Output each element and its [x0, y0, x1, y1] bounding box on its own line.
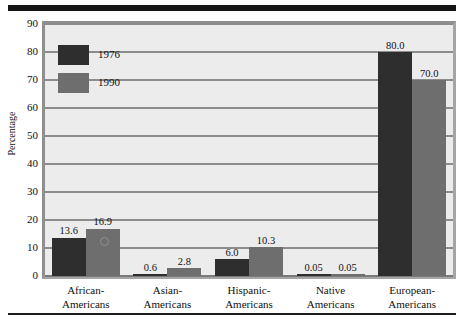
bar-value-label: 13.6 [60, 226, 78, 237]
legend-item-1976[interactable]: 1976 [58, 45, 168, 66]
y-axis-tick-label: 0 [8, 270, 38, 281]
bar-value-label: 10.3 [257, 236, 275, 247]
bar[interactable]: 6.0 [215, 259, 249, 276]
bar[interactable]: 0.05 [331, 274, 365, 276]
bar[interactable]: 70.0 [412, 80, 446, 276]
legend-label-1990: 1990 [98, 77, 120, 88]
category-label-line: Americans [45, 297, 127, 311]
y-axis-tick-label: 90 [8, 18, 38, 29]
y-axis-tick-label: 10 [8, 242, 38, 253]
category-label-line: African- [45, 283, 127, 297]
chart-legend: 1976 1990 [58, 45, 168, 101]
bar-value-label: 80.0 [386, 41, 404, 52]
bar-value-label: 0.05 [338, 263, 356, 274]
category-label-line: European- [371, 283, 453, 297]
y-axis-tick-label: 70 [8, 74, 38, 85]
bar[interactable]: 16.9 [86, 229, 120, 276]
category-label-line: Hispanic- [208, 283, 290, 297]
x-axis-category-label: African-Americans [45, 283, 127, 311]
bottom-rule-divider [8, 313, 456, 315]
legend-swatch-1990-icon [58, 73, 89, 93]
legend-item-1990[interactable]: 1990 [58, 73, 168, 94]
bar[interactable]: 0.05 [297, 274, 331, 276]
bar-chart-figure: 0102030405060708090 Percentage 13.616.90… [0, 0, 464, 324]
bar[interactable]: 13.6 [52, 238, 86, 276]
top-rule-divider [8, 5, 456, 11]
bar-value-label: 2.8 [178, 257, 191, 268]
bar[interactable]: 2.8 [167, 268, 201, 276]
gridline [45, 23, 453, 25]
bar-value-label: 0.05 [304, 263, 322, 274]
y-axis-tick-label: 80 [8, 46, 38, 57]
y-axis-tick-label: 20 [8, 214, 38, 225]
category-label-line: Americans [290, 297, 372, 311]
legend-swatch-1976-icon [58, 45, 89, 65]
category-label-line: Americans [208, 297, 290, 311]
category-label-line: Americans [371, 297, 453, 311]
bar-value-label: 0.6 [144, 263, 157, 274]
y-axis-tick-label: 30 [8, 186, 38, 197]
bar[interactable]: 80.0 [378, 52, 412, 276]
bar[interactable]: 0.6 [133, 274, 167, 276]
bar-value-label: 70.0 [420, 69, 438, 80]
x-axis-category-label: Hispanic-Americans [208, 283, 290, 311]
category-label-line: Native [290, 283, 372, 297]
x-axis-category-label: Asian-Americans [127, 283, 209, 311]
bar[interactable]: 10.3 [249, 247, 283, 276]
bar-value-label: 6.0 [225, 248, 238, 259]
category-label-line: Americans [127, 297, 209, 311]
x-axis-category-label: European-Americans [371, 283, 453, 311]
legend-label-1976: 1976 [98, 49, 120, 60]
scan-artifact-icon [100, 237, 109, 246]
category-label-line: Asian- [127, 283, 209, 297]
y-axis-title: Percentage [6, 99, 17, 169]
x-axis-category-label: NativeAmericans [290, 283, 372, 311]
bar-value-label: 16.9 [94, 217, 112, 228]
